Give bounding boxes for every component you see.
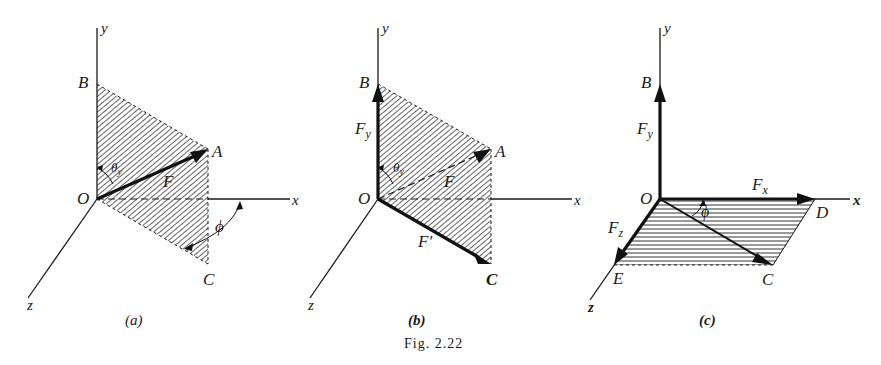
panel-label-a: (a): [125, 312, 143, 329]
vector-f-label: F: [162, 172, 174, 191]
z-axis: [28, 199, 97, 298]
phi-symbol: ϕ: [701, 203, 709, 221]
panel-label-b: (b): [408, 312, 426, 329]
figure-caption: Fig. 2.22: [404, 336, 463, 351]
axis-label-x: x: [573, 192, 581, 208]
point-c: C: [762, 270, 774, 289]
axis-label-z: z: [307, 297, 314, 313]
vector-f-label: F: [443, 172, 455, 191]
vector-fy-label: Fy: [636, 119, 653, 141]
point-b: B: [359, 73, 370, 92]
point-c: C: [486, 270, 498, 289]
z-axis: [310, 199, 378, 298]
axis-label-z: z: [26, 297, 33, 313]
point-b: B: [641, 73, 652, 92]
point-a: A: [494, 142, 506, 161]
point-o: O: [77, 189, 89, 208]
axis-label-x: x: [852, 192, 861, 208]
axis-label-y: y: [380, 20, 389, 36]
phi-symbol: ϕ: [215, 217, 224, 236]
panel-a: y x z B A O C F θy ϕ (a): [26, 20, 299, 329]
figure-2-22: y x z B A O C F θy ϕ (a) y x z: [0, 0, 881, 365]
point-c: C: [203, 270, 215, 289]
vector-f-prime-label: F′: [417, 232, 432, 251]
axis-label-z: z: [587, 299, 594, 315]
vector-fx-label: Fx: [751, 175, 768, 197]
axis-label-y: y: [662, 20, 671, 36]
vector-fz-label: Fz: [607, 218, 623, 240]
panel-c: y x z B O D C E Fy Fx Fz ϕ (c): [587, 20, 861, 329]
arrowhead-icon: [654, 84, 666, 102]
point-o: O: [358, 189, 370, 208]
point-e: E: [612, 269, 624, 288]
vector-fy-label: Fy: [354, 119, 371, 141]
axis-label-y: y: [99, 20, 108, 36]
point-d: D: [815, 203, 829, 222]
point-o: O: [640, 189, 652, 208]
axis-label-x: x: [291, 192, 299, 208]
point-a: A: [211, 142, 223, 161]
panel-label-c: (c): [699, 312, 716, 329]
panel-b: y x z B A O C Fy F F′ θy (b) Fig. 2.22: [307, 20, 581, 351]
point-b: B: [78, 73, 89, 92]
